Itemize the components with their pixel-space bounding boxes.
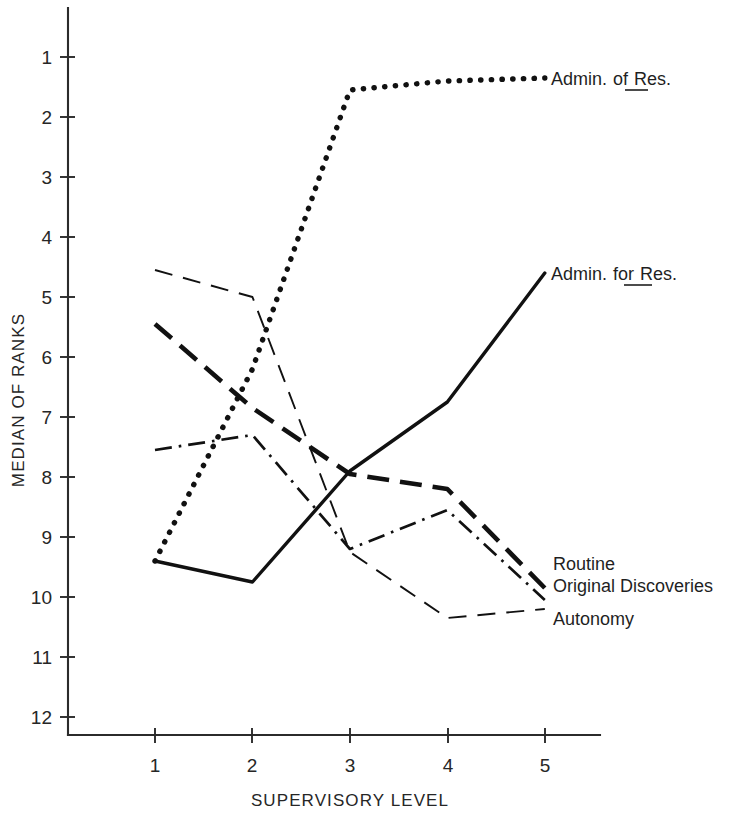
- series-label-admin-of-res-post: Res.: [634, 69, 671, 89]
- x-tick-label-2: 2: [247, 755, 258, 776]
- series-label-admin-for-res-mid: for: [613, 264, 634, 284]
- series-label-admin-for-res: Admin.forRes.: [551, 264, 677, 284]
- series-label-admin-for-res-post: Res.: [640, 264, 677, 284]
- y-tick-label-2: 2: [41, 107, 52, 128]
- series-label-routine: Routine: [553, 554, 615, 574]
- y-axis-title: MEDIAN OF RANKS: [9, 313, 28, 487]
- y-tick-label-12: 12: [31, 707, 52, 728]
- y-tick-label-10: 10: [31, 587, 52, 608]
- median-of-ranks-line-chart: 1 2 3 4 5 6 7 8 9 10 11 12 1 2 3 4 5: [0, 0, 731, 822]
- y-tick-label-6: 6: [41, 347, 52, 368]
- y-tick-label-9: 9: [41, 527, 52, 548]
- y-tick-label-3: 3: [41, 167, 52, 188]
- y-tick-label-7: 7: [41, 407, 52, 428]
- y-tick-label-11: 11: [32, 647, 52, 668]
- y-tick-label-5: 5: [41, 287, 52, 308]
- series-label-admin-for-res-pre: Admin.: [551, 264, 607, 284]
- y-tick-label-8: 8: [41, 467, 52, 488]
- chart-figure: 1 2 3 4 5 6 7 8 9 10 11 12 1 2 3 4 5: [0, 0, 731, 822]
- series-label-admin-for-res-group: Admin.forRes.: [551, 264, 677, 285]
- x-axis-title: SUPERVISORY LEVEL: [251, 791, 449, 810]
- x-tick-label-4: 4: [443, 755, 454, 776]
- series-label-admin-of-res-mid: of: [613, 69, 629, 89]
- x-tick-label-5: 5: [540, 755, 551, 776]
- y-tick-label-1: 1: [41, 47, 52, 68]
- series-label-admin-of-res-pre: Admin.: [551, 69, 607, 89]
- series-label-autonomy: Autonomy: [553, 609, 634, 629]
- x-tick-label-3: 3: [345, 755, 356, 776]
- y-tick-label-4: 4: [41, 227, 52, 248]
- chart-background: [0, 0, 731, 822]
- x-tick-label-1: 1: [150, 755, 161, 776]
- series-label-original-discoveries: Original Discoveries: [553, 576, 713, 596]
